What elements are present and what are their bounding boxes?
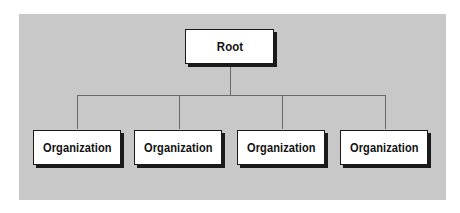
organization-label: Organization — [43, 140, 112, 155]
organization-label: Organization — [247, 140, 316, 155]
organization-node-3: Organization — [237, 130, 325, 165]
child-connector-1 — [77, 95, 78, 129]
root-node: Root — [185, 29, 274, 64]
organization-node-2: Organization — [134, 130, 222, 165]
organization-label: Organization — [350, 140, 419, 155]
organization-label: Organization — [144, 140, 213, 155]
organization-node-4: Organization — [340, 130, 428, 165]
child-connector-4 — [385, 95, 386, 129]
root-label: Root — [216, 39, 242, 54]
organization-node-1: Organization — [33, 130, 121, 165]
child-connector-2 — [179, 95, 180, 129]
child-connector-3 — [282, 95, 283, 129]
horizontal-connector — [77, 95, 386, 96]
root-connector — [230, 64, 231, 95]
